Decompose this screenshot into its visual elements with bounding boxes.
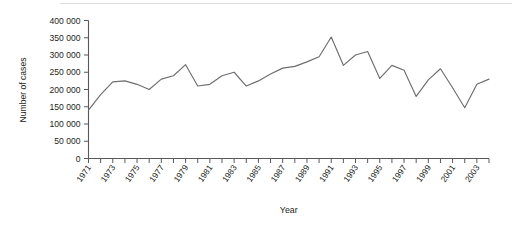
y-tick-mark-group	[84, 21, 89, 159]
x-tick-label: 1997	[390, 163, 409, 184]
line-chart: 050 000100 000150 000200 000250 000300 0…	[0, 0, 518, 229]
chart-figure: 050 000100 000150 000200 000250 000300 0…	[0, 0, 518, 229]
x-tick-label-group: 1971197319751977197919811983198519871989…	[74, 163, 481, 184]
x-tick-label: 1987	[268, 163, 287, 184]
y-tick-label: 150 000	[49, 102, 80, 112]
y-axis-title: Number of cases	[18, 58, 28, 123]
y-tick-label-group: 050 000100 000150 000200 000250 000300 0…	[49, 16, 80, 164]
y-tick-label: 300 000	[49, 50, 80, 60]
y-tick-label: 350 000	[49, 33, 80, 43]
x-tick-label: 1989	[293, 163, 312, 184]
x-tick-label: 1999	[414, 163, 433, 184]
x-axis-title: Year	[280, 205, 298, 215]
series-line-number-of-cases	[89, 37, 490, 110]
x-tick-label: 2003	[463, 163, 482, 184]
x-tick-label: 1971	[74, 163, 93, 184]
x-tick-label: 1985	[244, 163, 263, 184]
x-tick-label: 1973	[99, 163, 118, 184]
x-tick-label: 1993	[341, 163, 360, 184]
x-tick-label: 1991	[317, 163, 336, 184]
y-tick-label: 50 000	[54, 136, 81, 146]
x-tick-label: 1979	[171, 163, 190, 184]
x-tick-mark-group	[89, 159, 490, 164]
y-tick-label: 250 000	[49, 67, 80, 77]
x-tick-label: 2001	[438, 163, 457, 184]
y-tick-label: 100 000	[49, 119, 80, 129]
x-tick-label: 1995	[366, 163, 385, 184]
y-tick-label: 400 000	[49, 16, 80, 26]
x-tick-label: 1981	[196, 163, 215, 184]
y-tick-label: 0	[76, 154, 81, 164]
x-tick-label: 1975	[123, 163, 142, 184]
x-tick-label: 1977	[147, 163, 166, 184]
y-tick-label: 200 000	[49, 85, 80, 95]
x-tick-label: 1983	[220, 163, 239, 184]
